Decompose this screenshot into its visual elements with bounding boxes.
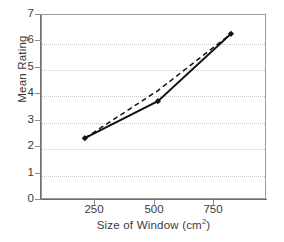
x-axis-title-main: Size of Window (cm	[97, 219, 202, 231]
x-axis-title-tail: )	[206, 219, 210, 231]
chart-figure: Mean Rating 7 6 5 4 3 2 1 0 250 500 750 …	[0, 0, 284, 242]
series-observed-line	[85, 34, 231, 138]
series-linear-fit-line	[85, 34, 231, 138]
data-series-layer	[0, 0, 284, 242]
series-observed-markers	[82, 31, 234, 142]
x-axis-title: Size of Window (cm2)	[41, 219, 266, 231]
